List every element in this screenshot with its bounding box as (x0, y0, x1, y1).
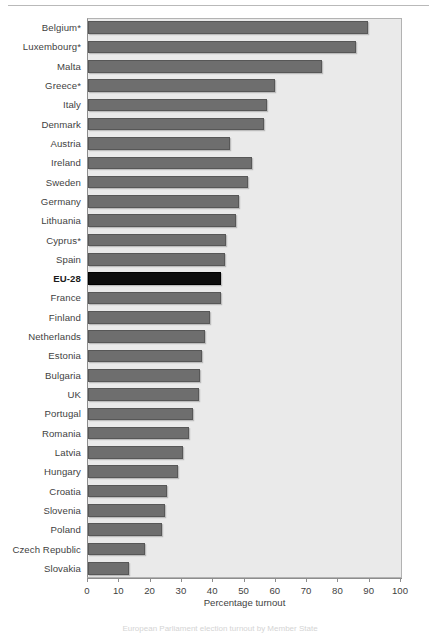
bar-row-label: UK (0, 389, 81, 400)
bar-row: Hungary (0, 462, 437, 481)
bar-track (88, 250, 402, 269)
bar-row-label: France (0, 292, 81, 303)
bar-row: Italy (0, 95, 437, 114)
bar-row: Slovakia (0, 559, 437, 578)
bar-row-label: Slovakia (0, 563, 81, 574)
bar-track (88, 327, 402, 346)
bar-track (88, 153, 402, 172)
bar-row-label: Bulgaria (0, 370, 81, 381)
bar-row-label: Romania (0, 428, 81, 439)
figure-caption: European Parliament election turnout by … (40, 624, 400, 633)
bar-row-label: Croatia (0, 486, 81, 497)
bar-row-label: Denmark (0, 119, 81, 130)
bar-row-label: Netherlands (0, 331, 81, 342)
bar-track (88, 366, 402, 385)
bar (88, 292, 221, 305)
bar-row-label: Cyprus* (0, 235, 81, 246)
bar (88, 523, 162, 536)
bar (88, 157, 252, 170)
bar (88, 21, 368, 34)
bar-row: Latvia (0, 443, 437, 462)
bar-row-label: Slovenia (0, 505, 81, 516)
bar (88, 253, 225, 266)
bar-row: Croatia (0, 481, 437, 500)
bar-track (88, 192, 402, 211)
bar-row: Germany (0, 192, 437, 211)
bar (88, 214, 236, 227)
bar-row-label: Italy (0, 99, 81, 110)
bar-track (88, 57, 402, 76)
bar-track (88, 230, 402, 249)
bar-track (88, 462, 402, 481)
bar-row: Estonia (0, 346, 437, 365)
bar-row: Luxembourg* (0, 37, 437, 56)
bar-row-label: Greece* (0, 80, 81, 91)
bar-row-label: Finland (0, 312, 81, 323)
bar-row: Belgium* (0, 18, 437, 37)
bar-row: Portugal (0, 404, 437, 423)
x-axis-title: Percentage turnout (87, 597, 402, 608)
x-axis-tick (150, 578, 151, 582)
bar-row: France (0, 288, 437, 307)
bar-track (88, 172, 402, 191)
bar (88, 234, 226, 247)
bar (88, 311, 210, 324)
bar-track (88, 115, 402, 134)
bar-row-label: Austria (0, 138, 81, 149)
bar-row-label: Lithuania (0, 215, 81, 226)
bar-track (88, 346, 402, 365)
bar-row-label: Malta (0, 61, 81, 72)
bar-row-label: Portugal (0, 408, 81, 419)
bar (88, 562, 129, 575)
bar (88, 79, 275, 92)
bar-row-label: Belgium* (0, 22, 81, 33)
bar-rows: Belgium*Luxembourg*MaltaGreece*ItalyDenm… (0, 18, 437, 578)
bar-track (88, 134, 402, 153)
bar-row: Bulgaria (0, 366, 437, 385)
bar-row: Poland (0, 520, 437, 539)
bar-track (88, 404, 402, 423)
bar (88, 41, 356, 54)
bar-row: Lithuania (0, 211, 437, 230)
bar (88, 485, 167, 498)
bar (88, 446, 183, 459)
bar (88, 388, 199, 401)
bar (88, 369, 200, 382)
bar-row-label: Hungary (0, 466, 81, 477)
bar (88, 408, 193, 421)
x-axis-tick (212, 578, 213, 582)
bar (88, 427, 189, 440)
bar-track (88, 288, 402, 307)
bar-track (88, 424, 402, 443)
x-axis-tick (244, 578, 245, 582)
bar-row: Ireland (0, 153, 437, 172)
bar-row-label: Germany (0, 196, 81, 207)
bar-track (88, 559, 402, 578)
x-axis-tick-label: 100 (380, 585, 420, 596)
x-axis-tick (400, 578, 401, 582)
bar-track (88, 539, 402, 558)
bar-row-label: Czech Republic (0, 544, 81, 555)
bar-row-label: Poland (0, 524, 81, 535)
bar (88, 99, 267, 112)
bar-row: Spain (0, 250, 437, 269)
bar-row-label: EU-28 (0, 273, 81, 284)
bar-row-label: Sweden (0, 177, 81, 188)
bar-track (88, 520, 402, 539)
figure-container: Belgium*Luxembourg*MaltaGreece*ItalyDenm… (0, 0, 437, 634)
bar-row-label: Latvia (0, 447, 81, 458)
bar-row: Czech Republic (0, 539, 437, 558)
bar (88, 330, 205, 343)
bar-row-label: Spain (0, 254, 81, 265)
bar-row: Denmark (0, 115, 437, 134)
bar-row: Netherlands (0, 327, 437, 346)
bar (88, 465, 178, 478)
x-axis-tick (87, 578, 88, 582)
bar-row: Finland (0, 308, 437, 327)
bar-track (88, 269, 402, 288)
bar (88, 60, 322, 73)
bar-row: Greece* (0, 76, 437, 95)
bar (88, 176, 248, 189)
x-axis-tick (118, 578, 119, 582)
x-axis-tick (306, 578, 307, 582)
